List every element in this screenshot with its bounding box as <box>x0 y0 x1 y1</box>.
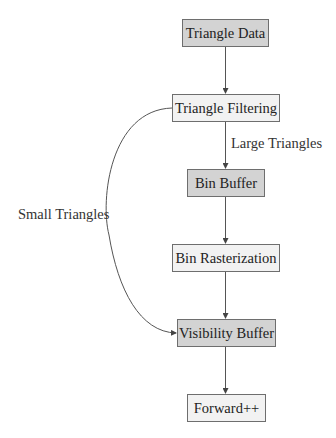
node-label: Visibility Buffer <box>179 325 274 342</box>
node-label: Triangle Data <box>186 25 266 42</box>
node-visibility-buffer: Visibility Buffer <box>177 319 276 347</box>
node-label: Bin Buffer <box>195 175 257 192</box>
edge-label-small-triangles: Small Triangles <box>18 206 109 223</box>
node-triangle-filtering: Triangle Filtering <box>172 94 280 122</box>
node-triangle-data: Triangle Data <box>182 19 269 47</box>
node-label: Triangle Filtering <box>175 100 277 117</box>
edge-filtering-to-visibility-curve <box>106 108 176 333</box>
node-label: Bin Rasterization <box>175 250 276 267</box>
node-label: Forward++ <box>194 400 259 417</box>
node-bin-rasterization: Bin Rasterization <box>172 244 280 272</box>
edge-label-large-triangles: Large Triangles <box>231 135 322 152</box>
node-forward-plus-plus: Forward++ <box>187 394 266 422</box>
node-bin-buffer: Bin Buffer <box>187 169 265 197</box>
